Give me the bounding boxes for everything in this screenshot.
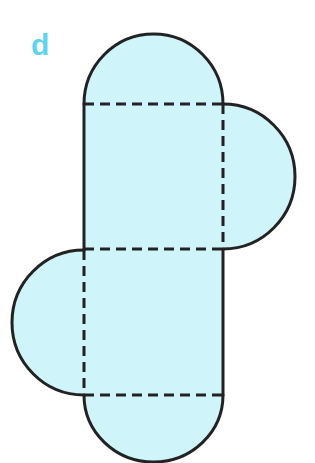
bottom-semicircle (84, 395, 223, 462)
net-diagram (0, 0, 315, 463)
left-semicircle (12, 250, 84, 395)
top-semicircle (84, 34, 223, 104)
right-semicircle (223, 104, 295, 249)
